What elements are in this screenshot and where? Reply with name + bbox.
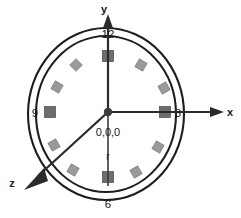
y-axis-arrowhead	[103, 14, 113, 28]
x-axis-label: x	[227, 106, 234, 118]
hour-marker-11	[70, 59, 83, 72]
hour-label-9: 9	[32, 107, 38, 119]
hour-marker-2	[158, 82, 170, 94]
hour-marker-1	[135, 59, 147, 71]
hour-label-3: 3	[175, 107, 181, 119]
hour-marker-10	[51, 81, 63, 93]
diagram-canvas: y x z 12 3 6 9 0,0,0 r	[0, 0, 241, 218]
x-axis-arrowhead	[210, 107, 224, 117]
hour-marker-9	[45, 107, 56, 118]
hour-marker-7	[67, 164, 79, 176]
hour-label-6: 6	[105, 198, 111, 210]
z-axis-label: z	[9, 177, 15, 189]
hour-marker-4	[152, 141, 164, 153]
origin-dot	[104, 108, 112, 116]
hour-marker-8	[48, 139, 60, 151]
hour-marker-5	[130, 166, 142, 178]
y-axis-label: y	[101, 3, 108, 15]
origin-coordinate-label: 0,0,0	[96, 126, 120, 138]
z-axis-arrowhead	[24, 168, 48, 190]
hour-label-12: 12	[102, 28, 115, 40]
radius-label: r	[106, 151, 110, 162]
